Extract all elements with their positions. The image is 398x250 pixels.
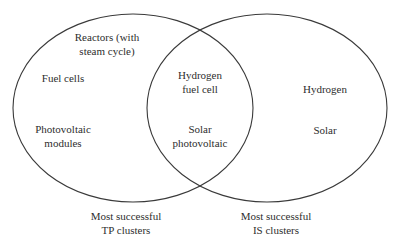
intersection-item-hydrogen-fuel-cell: Hydrogen fuel cell bbox=[178, 69, 222, 96]
intersection-item-solar-photovoltaic: Solar photovoltaic bbox=[173, 123, 228, 150]
is-clusters-set-ellipse bbox=[147, 14, 387, 202]
tp-item-photovoltaic-modules: Photovoltaic modules bbox=[35, 123, 91, 150]
tp-item-fuel-cells: Fuel cells bbox=[42, 72, 84, 86]
tp-clusters-caption: Most successful TP clusters bbox=[91, 210, 162, 237]
is-clusters-caption: Most successful IS clusters bbox=[241, 210, 312, 237]
tp-item-reactors: Reactors (with steam cycle) bbox=[75, 31, 139, 58]
is-item-solar: Solar bbox=[313, 124, 336, 138]
is-item-hydrogen: Hydrogen bbox=[303, 83, 347, 97]
